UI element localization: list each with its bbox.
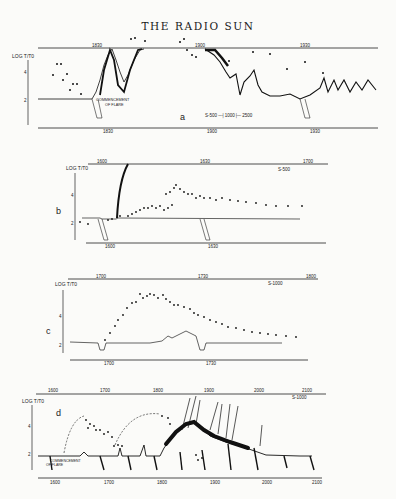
bottom-tick: 1600 — [105, 244, 116, 249]
bottom-tick: 1900 — [207, 129, 218, 134]
scale-note: S-1000 — [268, 281, 283, 286]
chart-panel-d: 1600 1700 1800 1900 2000 2100 S-1000 160… — [0, 385, 396, 495]
bottom-tick: 2100 — [312, 480, 323, 485]
top-tick: 1600 — [97, 159, 108, 164]
top-tick: 1800 — [306, 274, 317, 279]
flare-annotation: OF FLARE — [105, 103, 124, 107]
panel-label-b: b — [56, 206, 61, 216]
scale-note: S-500 ─┤1000├─ 2500 — [205, 112, 253, 119]
bottom-tick: 1730 — [206, 361, 217, 366]
bottom-tick: 1700 — [104, 480, 115, 485]
bottom-tick: 1700 — [104, 361, 115, 366]
y-tick: 2 — [59, 343, 62, 348]
chart-panel-b: 1600 1630 1700 S-500 1600 1630 LOG T/T0 … — [0, 150, 396, 250]
y-axis-label: LOG T/T0 — [55, 281, 77, 287]
y-tick: 4 — [24, 70, 27, 75]
y-tick: 2 — [71, 221, 74, 226]
y-tick: 2 — [24, 98, 27, 103]
bottom-tick: 1800 — [157, 480, 168, 485]
chart-panel-a: 1830 1900 1930 1830 1900 1930 LOG T/T0 4… — [0, 40, 396, 135]
scale-note: S-500 — [278, 167, 291, 172]
page-title: THE RADIO SUN — [0, 20, 396, 32]
top-tick: 1700 — [96, 274, 107, 279]
top-tick: 2100 — [302, 388, 313, 393]
chart-panel-c: 1700 1730 1800 S-1000 1700 1730 LOG T/T0… — [0, 270, 396, 370]
bottom-tick: 1630 — [208, 244, 219, 249]
y-tick: 4 — [59, 314, 62, 319]
top-tick: 1600 — [48, 388, 59, 393]
top-tick: 1630 — [200, 159, 211, 164]
bottom-tick: 1600 — [50, 480, 61, 485]
top-tick: 2000 — [254, 388, 265, 393]
y-axis-label: LOG T/T0 — [12, 53, 34, 59]
bottom-tick: 1930 — [310, 129, 321, 134]
bottom-tick: 2000 — [262, 480, 273, 485]
panel-label-d: d — [56, 408, 61, 418]
scale-note: S-1000 — [292, 395, 307, 400]
bottom-tick: 1900 — [210, 480, 221, 485]
top-tick: 1830 — [92, 43, 103, 48]
flare-annotation: COMMENCEMENT — [96, 98, 130, 102]
top-tick: 1800 — [153, 388, 164, 393]
panel-label-a: a — [180, 112, 185, 122]
y-axis-label: LOG T/T0 — [22, 398, 44, 404]
y-tick: 2 — [28, 452, 31, 457]
top-tick: 1930 — [300, 43, 311, 48]
top-tick: 1700 — [100, 388, 111, 393]
top-tick: 1900 — [195, 43, 206, 48]
y-tick: 4 — [71, 193, 74, 198]
bottom-tick: 1830 — [103, 129, 114, 134]
top-tick: 1900 — [204, 388, 215, 393]
y-tick: 4 — [28, 424, 31, 429]
y-axis-label: LOG T/T0 — [66, 165, 88, 171]
top-tick: 1730 — [198, 274, 209, 279]
panel-label-c: c — [46, 326, 51, 336]
flare-annotation: OF FLARE — [46, 463, 64, 467]
top-tick: 1700 — [303, 159, 314, 164]
